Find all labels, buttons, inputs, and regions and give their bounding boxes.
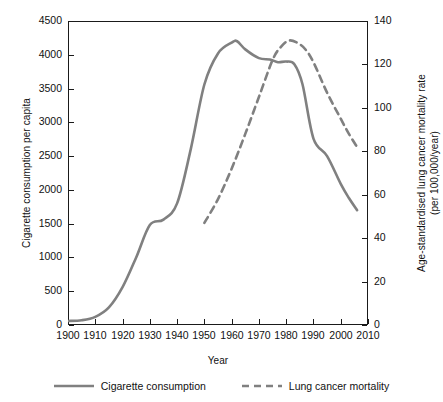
series-line-lung-cancer-mortality [204,40,357,223]
legend-item: Lung cancer mortality [242,380,389,392]
y-tick-label-left: 3500 [28,82,62,94]
y-axis-right-title: Age-standardised lung cancer mortality r… [415,21,443,325]
y-tick-label-right: 140 [374,14,408,26]
x-tick [368,319,369,324]
y-axis-left-title: Cigarette consumption per capita [19,21,35,325]
y-tick-label-left: 3000 [28,115,62,127]
y-tick-label-right: 100 [374,101,408,113]
chart-figure: Cigarette consumption per capita Age-sta… [0,0,443,402]
legend-swatch-solid [54,381,94,391]
y-tick-label-left: 500 [28,284,62,296]
y-tick-label-left: 1500 [28,217,62,229]
y-tick-right [362,325,367,326]
y-axis-right-title-line1: Age-standardised lung cancer mortality r… [416,74,427,272]
legend-label: Cigarette consumption [101,380,206,392]
plot-area [68,21,368,325]
series-layer [68,40,357,321]
legend-label: Lung cancer mortality [289,380,389,392]
y-tick-label-left: 2500 [28,149,62,161]
series-line-cigarette-consumption [68,41,357,321]
y-tick-label-left: 1000 [28,250,62,262]
y-tick-label-left: 4500 [28,14,62,26]
y-tick-left [69,325,74,326]
y-tick-label-right: 20 [374,275,408,287]
y-tick-label-right: 60 [374,188,408,200]
y-axis-right-title-line2: (per 100,000/year) [429,131,440,215]
y-tick-label-right: 80 [374,144,408,156]
y-tick-label-left: 2000 [28,183,62,195]
legend-item: Cigarette consumption [54,380,206,392]
chart-legend: Cigarette consumptionLung cancer mortali… [0,376,443,396]
y-tick-label-right: 120 [374,57,408,69]
y-tick-label-left: 4000 [28,48,62,60]
legend-swatch-dashed [242,381,282,391]
x-axis-title: Year [68,355,368,366]
x-tick-label: 2010 [348,329,388,341]
y-tick-label-right: 40 [374,231,408,243]
